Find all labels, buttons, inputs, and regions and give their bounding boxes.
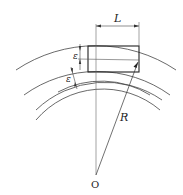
- chord-line: [78, 59, 139, 60]
- arrow-right-icon: [134, 25, 139, 28]
- inner-arc: [36, 89, 160, 120]
- gap-upper-arrow-down-icon: [79, 46, 81, 51]
- third-arc: [36, 82, 162, 110]
- radius-label: R: [119, 111, 128, 124]
- arrow-left-icon: [96, 25, 101, 28]
- diagram-canvas: L R O ε ε: [0, 0, 183, 195]
- radius-arrow-icon: [134, 62, 139, 68]
- gap-upper-arrow-up-icon: [79, 59, 81, 64]
- gap-lower-label: ε: [66, 74, 71, 84]
- radius-line: [96, 62, 138, 175]
- gap-upper-label: ε: [73, 51, 78, 61]
- length-label: L: [113, 12, 121, 25]
- center-label: O: [91, 179, 99, 190]
